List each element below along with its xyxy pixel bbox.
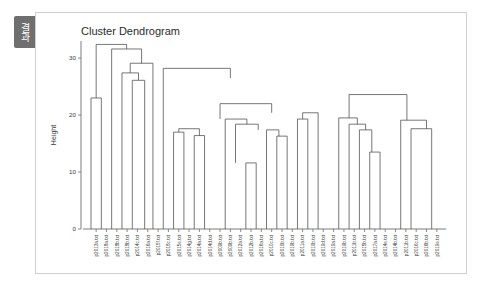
dendrogram-branch — [122, 73, 139, 229]
leaf-label: p2011b.txt — [352, 234, 357, 256]
y-axis: 0102030 — [69, 41, 81, 232]
dendrogram-chart: 0102030 p2013a.txtp2018a.txtp2018b.txtp2… — [36, 13, 468, 275]
leaf-label: p2019a.txt — [331, 234, 336, 256]
y-axis-title: Height — [50, 125, 58, 145]
dendrogram-branch — [401, 120, 427, 229]
leaf-labels: p2013a.txtp2018a.txtp2018b.txtp2018b.txt… — [94, 234, 440, 256]
leaf-label: p2018b.txt — [115, 234, 120, 256]
y-tick-label: 30 — [69, 54, 76, 61]
dendrogram-branch — [91, 98, 101, 229]
dendrogram-branches — [91, 44, 432, 229]
leaf-label: p2010b.txt — [311, 234, 316, 256]
leaf-label: p2011a.txt — [300, 234, 305, 256]
leaf-label: p2019e.txt — [435, 234, 440, 256]
leaf-label: p2019b.txt — [290, 234, 295, 256]
dendrogram-svg: 0102030 p2013a.txtp2018a.txtp2018b.txtp2… — [36, 13, 468, 275]
dendrogram-branch — [130, 63, 153, 229]
dendrogram-branch — [194, 136, 204, 229]
dendrogram-branch — [349, 95, 407, 121]
x-axis — [83, 229, 446, 232]
dendrogram-branch — [174, 132, 184, 229]
leaf-label: p2016a.txt — [146, 234, 151, 256]
leaf-label: p2015e.txt — [177, 234, 182, 256]
leaf-label: p2011b.txt — [404, 234, 409, 256]
leaf-label: p2015f.txt — [156, 234, 161, 255]
result-tab[interactable]: 결과 — [14, 16, 35, 48]
leaf-label: p2012a.txt — [238, 234, 243, 256]
dendrogram-branch — [225, 119, 247, 229]
dendrogram-branch — [411, 129, 432, 229]
leaf-label: p2009b.txt — [218, 234, 223, 256]
dendrogram-branch — [370, 152, 380, 229]
dendrogram-branch — [349, 124, 366, 229]
leaf-label: p2015b.txt — [362, 234, 367, 256]
leaf-label: p2014g.txt — [187, 234, 192, 256]
leaf-label: p2016a.txt — [259, 234, 264, 256]
y-tick-label: 20 — [69, 111, 76, 118]
y-tick-label: 0 — [73, 225, 77, 232]
dendrogram-branch — [112, 49, 142, 229]
leaf-label: p2014c.txt — [135, 234, 140, 256]
dendrogram-branch — [297, 119, 307, 229]
leaf-label: p2019d.txt — [321, 234, 326, 256]
leaf-label: p2016b.txt — [424, 234, 429, 256]
leaf-label: p2012b.txt — [249, 234, 254, 256]
leaf-label: p2018b.txt — [125, 234, 130, 256]
dendrogram-branch — [303, 113, 318, 229]
result-tab-label: 결과 — [19, 23, 30, 41]
leaf-label: p2017a.txt — [373, 234, 378, 256]
leaf-label: p2014b.txt — [393, 234, 398, 256]
dendrogram-branch — [277, 136, 287, 229]
y-tick-label: 10 — [69, 168, 76, 175]
dendrogram-branch — [236, 124, 259, 163]
chart-panel: Cluster Dendrogram 0102030 p2013a.txtp20… — [35, 12, 467, 274]
leaf-label: p2010c.txt — [269, 234, 274, 256]
dendrogram-branch — [220, 104, 272, 119]
screenshot-root: 결과 Cluster Dendrogram 0102030 p2013a.txt… — [0, 0, 478, 285]
dendrogram-branch — [132, 80, 144, 229]
leaf-label: p2019b.txt — [342, 234, 347, 256]
leaf-label: p2013a.txt — [94, 234, 99, 256]
dendrogram-branch — [246, 163, 256, 229]
dendrogram-branch — [339, 118, 358, 229]
leaf-label: p2014a.txt — [197, 234, 202, 256]
leaf-label: p2010b.txt — [280, 234, 285, 256]
leaf-label: p2014e.txt — [383, 234, 388, 256]
leaf-label: p2009b.txt — [228, 234, 233, 256]
leaf-label: p2018c.txt — [166, 234, 171, 256]
leaf-label: p2018a.txt — [104, 234, 109, 256]
leaf-label: p2016c.txt — [414, 234, 419, 256]
leaf-label: p2014d.txt — [208, 234, 213, 256]
